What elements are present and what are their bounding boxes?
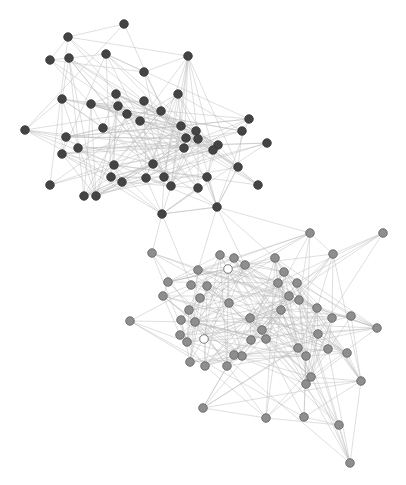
node-cluster-a[interactable] [149, 160, 158, 169]
node-cluster-b[interactable] [203, 282, 212, 291]
node-cluster-b[interactable] [191, 318, 200, 327]
node-cluster-a[interactable] [142, 174, 151, 183]
node-cluster-a[interactable] [174, 90, 183, 99]
node-cluster-a[interactable] [184, 52, 193, 61]
node-cluster-a[interactable] [58, 150, 67, 159]
node-cluster-a[interactable] [203, 173, 212, 182]
node-cluster-b[interactable] [313, 304, 322, 313]
node-cluster-b[interactable] [302, 380, 311, 389]
node-cluster-b[interactable] [238, 352, 247, 361]
node-cluster-b[interactable] [223, 362, 232, 371]
node-cluster-a[interactable] [209, 146, 218, 155]
node-cluster-a[interactable] [64, 33, 73, 42]
node-cluster-a[interactable] [238, 127, 247, 136]
node-cluster-b[interactable] [199, 404, 208, 413]
node-cluster-a[interactable] [112, 90, 121, 99]
node-cluster-b[interactable] [216, 251, 225, 260]
node-cluster-a[interactable] [157, 107, 166, 116]
node-cluster-a[interactable] [58, 95, 67, 104]
node-cluster-b[interactable] [177, 316, 186, 325]
node-cluster-a[interactable] [263, 139, 272, 148]
node-cluster-a[interactable] [74, 144, 83, 153]
node-cluster-b[interactable] [262, 414, 271, 423]
node-cluster-a[interactable] [21, 126, 30, 135]
node-cluster-a[interactable] [65, 54, 74, 63]
node-cluster-b[interactable] [258, 326, 267, 335]
node-cluster-a[interactable] [177, 122, 186, 131]
node-cluster-b[interactable] [246, 314, 255, 323]
node-cluster-a[interactable] [213, 203, 222, 212]
node-cluster-b[interactable] [194, 266, 203, 275]
node-cluster-b[interactable] [347, 312, 356, 321]
node-cluster-b[interactable] [186, 358, 195, 367]
node-highlighted[interactable] [200, 335, 209, 344]
node-cluster-a[interactable] [120, 20, 129, 29]
node-cluster-a[interactable] [158, 210, 167, 219]
node-cluster-b[interactable] [357, 377, 366, 386]
node-cluster-b[interactable] [262, 335, 271, 344]
node-cluster-a[interactable] [140, 97, 149, 106]
node-cluster-b[interactable] [300, 413, 309, 422]
node-cluster-b[interactable] [379, 229, 388, 238]
node-cluster-b[interactable] [335, 421, 344, 430]
node-cluster-b[interactable] [148, 249, 157, 258]
node-cluster-b[interactable] [187, 281, 196, 290]
node-cluster-a[interactable] [234, 163, 243, 172]
node-cluster-b[interactable] [185, 306, 194, 315]
node-cluster-b[interactable] [306, 229, 315, 238]
node-cluster-b[interactable] [247, 336, 256, 345]
node-cluster-b[interactable] [176, 331, 185, 340]
node-cluster-a[interactable] [114, 102, 123, 111]
node-cluster-b[interactable] [346, 459, 355, 468]
node-cluster-a[interactable] [110, 161, 119, 170]
node-cluster-a[interactable] [194, 184, 203, 193]
node-cluster-a[interactable] [123, 110, 132, 119]
node-cluster-a[interactable] [140, 68, 149, 77]
node-cluster-a[interactable] [254, 181, 263, 190]
node-cluster-b[interactable] [293, 279, 302, 288]
node-cluster-b[interactable] [225, 299, 234, 308]
node-cluster-b[interactable] [196, 294, 205, 303]
node-cluster-b[interactable] [164, 278, 173, 287]
node-cluster-a[interactable] [180, 144, 189, 153]
node-cluster-a[interactable] [80, 192, 89, 201]
node-cluster-a[interactable] [46, 181, 55, 190]
node-cluster-b[interactable] [230, 351, 239, 360]
node-cluster-a[interactable] [102, 50, 111, 59]
node-cluster-b[interactable] [183, 338, 192, 347]
node-cluster-b[interactable] [328, 314, 337, 323]
node-cluster-a[interactable] [87, 100, 96, 109]
node-cluster-a[interactable] [46, 56, 55, 65]
node-cluster-b[interactable] [271, 254, 280, 263]
node-cluster-b[interactable] [159, 292, 168, 301]
node-cluster-a[interactable] [136, 117, 145, 126]
node-cluster-b[interactable] [201, 362, 210, 371]
node-cluster-b[interactable] [343, 349, 352, 358]
node-cluster-a[interactable] [107, 173, 116, 182]
node-cluster-b[interactable] [241, 261, 250, 270]
node-cluster-b[interactable] [329, 250, 338, 259]
node-cluster-b[interactable] [285, 292, 294, 301]
node-cluster-b[interactable] [295, 296, 304, 305]
node-cluster-a[interactable] [167, 182, 176, 191]
node-cluster-b[interactable] [230, 254, 239, 263]
node-cluster-a[interactable] [92, 192, 101, 201]
node-cluster-a[interactable] [118, 178, 127, 187]
node-highlighted[interactable] [224, 265, 233, 274]
node-cluster-a[interactable] [160, 173, 169, 182]
node-cluster-a[interactable] [99, 124, 108, 133]
node-cluster-a[interactable] [194, 135, 203, 144]
node-cluster-b[interactable] [126, 317, 135, 326]
node-cluster-b[interactable] [274, 279, 283, 288]
node-cluster-b[interactable] [302, 352, 311, 361]
node-cluster-b[interactable] [277, 306, 286, 315]
node-cluster-b[interactable] [324, 345, 333, 354]
node-cluster-b[interactable] [294, 344, 303, 353]
node-cluster-a[interactable] [62, 133, 71, 142]
node-cluster-a[interactable] [182, 134, 191, 143]
node-cluster-a[interactable] [192, 127, 201, 136]
node-cluster-b[interactable] [314, 330, 323, 339]
node-cluster-b[interactable] [280, 268, 289, 277]
node-cluster-b[interactable] [373, 324, 382, 333]
node-cluster-a[interactable] [245, 115, 254, 124]
